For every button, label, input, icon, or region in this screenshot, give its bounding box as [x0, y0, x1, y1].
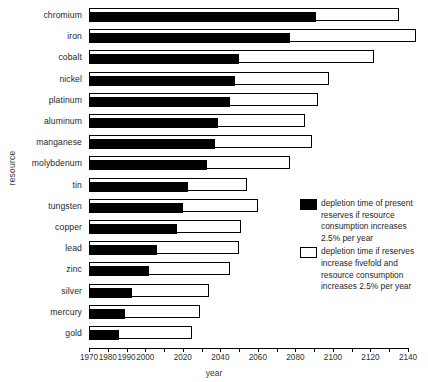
category-label-gold: gold	[0, 328, 82, 338]
x-axis-tick	[408, 348, 409, 352]
category-label-copper: copper	[0, 222, 82, 232]
bar-present-reserves	[89, 245, 157, 255]
x-axis-tick	[314, 348, 315, 352]
x-axis-tick-label: 2120	[361, 353, 379, 362]
category-label-nickel: nickel	[0, 74, 82, 84]
bar-present-reserves	[89, 54, 239, 64]
category-label-aluminum: aluminum	[0, 116, 82, 126]
bar-present-reserves	[89, 139, 215, 149]
chart-legend: depletion time of present reserves if re…	[300, 198, 426, 295]
x-axis-tick	[145, 348, 146, 352]
hollow-white-swatch-icon	[300, 247, 317, 258]
x-axis-title: year	[0, 368, 428, 378]
resource-depletion-chart: resource chromiumironcobaltnickelplatinu…	[0, 0, 428, 382]
plot-area	[89, 8, 408, 348]
category-label-iron: iron	[0, 31, 82, 41]
x-axis-tick-label: 2040	[211, 353, 229, 362]
category-label-mercury: mercury	[0, 307, 82, 317]
legend-label: depletion time of present reserves if re…	[321, 198, 426, 244]
x-axis-tick	[295, 348, 296, 352]
x-axis-tick	[333, 348, 334, 352]
x-axis-tick	[277, 348, 278, 352]
category-label-lead: lead	[0, 243, 82, 253]
legend-label: depletion time if reserves increase five…	[321, 246, 426, 292]
x-axis-tick	[389, 348, 390, 352]
x-axis-tick-label: 2140	[399, 353, 417, 362]
category-label-manganese: manganese	[0, 137, 82, 147]
bar-present-reserves	[89, 224, 177, 234]
x-axis-tick	[202, 348, 203, 352]
category-label-column: chromiumironcobaltnickelplatinumaluminum…	[0, 0, 86, 348]
legend-item-present-reserves: depletion time of present reserves if re…	[300, 198, 426, 244]
bar-present-reserves	[89, 203, 183, 213]
bar-present-reserves	[89, 160, 207, 170]
bar-present-reserves	[89, 330, 119, 340]
x-axis-tick	[164, 348, 165, 352]
bar-present-reserves	[89, 76, 235, 86]
filled-black-swatch-icon	[300, 199, 317, 210]
x-axis-tick-label: 2100	[324, 353, 342, 362]
category-label-platinum: platinum	[0, 95, 82, 105]
bar-present-reserves	[89, 118, 218, 128]
x-axis-tick-label: 2020	[174, 353, 192, 362]
bar-present-reserves	[89, 182, 188, 192]
x-axis-tick-label: 1970	[80, 353, 98, 362]
x-axis-tick	[370, 348, 371, 352]
category-label-tin: tin	[0, 180, 82, 190]
category-label-zinc: zinc	[0, 264, 82, 274]
x-axis-tick	[183, 348, 184, 352]
category-label-chromium: chromium	[0, 10, 82, 20]
bar-present-reserves	[89, 97, 230, 107]
x-axis-tick	[127, 348, 128, 352]
bar-present-reserves	[89, 33, 290, 43]
category-label-tungsten: tungsten	[0, 201, 82, 211]
x-axis-tick	[89, 348, 90, 352]
x-axis-tick	[352, 348, 353, 352]
x-axis-tick-label: 1980	[99, 353, 117, 362]
category-label-molybdenum: molybdenum	[0, 158, 82, 168]
x-axis-tick-label: 2080	[286, 353, 304, 362]
x-axis-line	[89, 348, 409, 349]
x-axis-tick	[108, 348, 109, 352]
x-axis-tick-label: 2000	[136, 353, 154, 362]
x-axis-tick	[258, 348, 259, 352]
x-axis-tick	[220, 348, 221, 352]
legend-item-fivefold-reserves: depletion time if reserves increase five…	[300, 246, 426, 292]
bar-present-reserves	[89, 288, 132, 298]
x-axis-tick	[239, 348, 240, 352]
bar-present-reserves	[89, 12, 316, 22]
x-axis-tick-label: 2060	[249, 353, 267, 362]
category-label-silver: silver	[0, 286, 82, 296]
category-label-cobalt: cobalt	[0, 52, 82, 62]
bar-present-reserves	[89, 266, 149, 276]
x-axis-tick-label: 1990	[117, 353, 135, 362]
bar-present-reserves	[89, 309, 125, 319]
